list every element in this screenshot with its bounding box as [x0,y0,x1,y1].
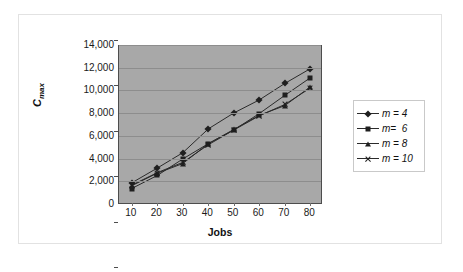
legend-marker-x-icon [357,153,379,164]
data-point-marker [281,101,288,108]
x-tick-label: 40 [194,207,220,219]
legend-label: m = 8 [379,138,407,149]
x-tick-mark [132,203,133,206]
legend-marker-square-icon [357,123,379,134]
x-axis-tick-labels: 1020304050607080 [118,207,322,221]
x-tick-label: 70 [271,207,297,219]
gridline [119,159,321,160]
data-point-marker [308,75,313,80]
y-axis-title-base: C [31,99,43,107]
legend-label: m = 10 [379,153,413,164]
y-tick-label: 10,000 [68,85,114,95]
x-tick-label: 10 [118,207,144,219]
x-tick-mark [310,203,311,206]
x-axis-title: Jobs [118,226,322,238]
legend-item[interactable]: m = 10 [357,151,420,166]
legend-item[interactable]: m= 6 [357,121,420,136]
y-tick-label: 2,000 [68,176,114,186]
legend-marker-diamond-icon [357,108,379,119]
legend: m = 4m= 6m = 8m = 10 [353,100,425,172]
y-tick-label: 6,000 [68,131,114,141]
y-tick-label: 14,000 [68,40,114,50]
x-tick-label: 30 [169,207,195,219]
x-tick-mark [208,203,209,206]
chart-frame: Cmax 14,00012,00010,0008,0006,0004,0002,… [18,14,442,244]
y-tick-label: 8,000 [68,108,114,118]
y-axis-tick-labels: 14,00012,00010,0008,0006,0004,0002,0000 [62,45,114,204]
x-tick-mark [157,203,158,206]
x-tick-mark [259,203,260,206]
x-tick-label: 20 [143,207,169,219]
x-tick-label: 50 [220,207,246,219]
gridline [119,90,321,91]
data-point-marker [282,93,287,98]
x-tick-label: 60 [245,207,271,219]
data-point-marker [179,159,186,166]
y-axis-title: Cmax [31,83,46,107]
gridline [119,113,321,114]
y-tick-label: 4,000 [68,154,114,164]
data-point-marker [205,141,212,148]
x-tick-label: 80 [296,207,322,219]
gridline [119,181,321,182]
x-tick-mark [234,203,235,206]
y-tick-label: 0 [68,199,114,209]
y-tick-label: 12,000 [68,63,114,73]
gridline [119,45,321,46]
gridline [119,136,321,137]
legend-marker-triangle-icon [357,138,379,149]
data-point-marker [128,182,135,189]
y-axis-title-subscript: max [37,83,46,99]
x-tick-mark [183,203,184,206]
legend-item[interactable]: m = 4 [357,106,420,121]
legend-item[interactable]: m = 8 [357,136,420,151]
plot-area [118,45,322,204]
legend-label: m= 6 [379,123,407,134]
legend-label: m = 4 [379,108,407,119]
x-tick-mark [285,203,286,206]
gridline [119,68,321,69]
data-point-marker [230,127,237,134]
data-point-marker [154,169,161,176]
